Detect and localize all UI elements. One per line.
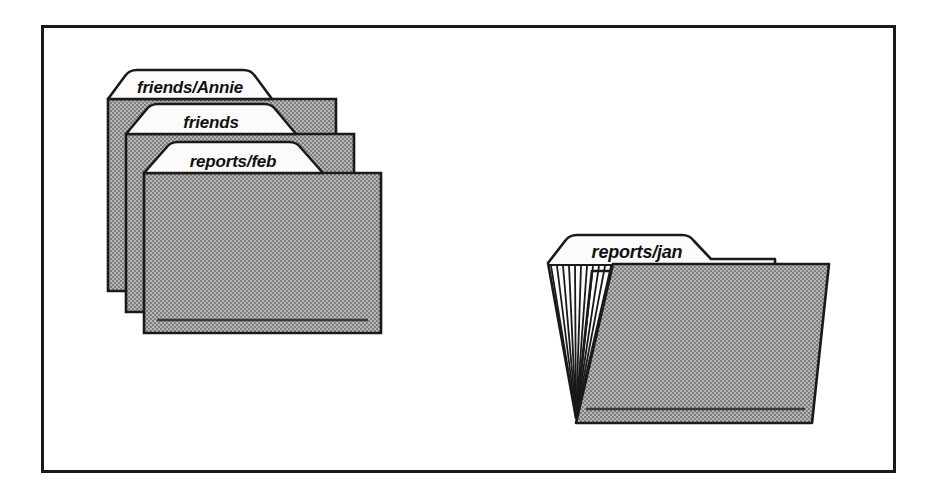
folder-tab-label: friends/Annie bbox=[137, 78, 243, 97]
folder-body bbox=[144, 173, 381, 333]
folder-tab-label: reports/feb bbox=[190, 152, 277, 171]
figure-root: friends/Annie friends reports/feb report… bbox=[0, 0, 933, 498]
open-folder-front-panel bbox=[576, 264, 829, 423]
open-folder-tab-label: reports/jan bbox=[592, 242, 683, 262]
folder-tab-label: friends bbox=[183, 113, 238, 132]
folder-illustration-canvas: friends/Annie friends reports/feb report… bbox=[0, 0, 933, 498]
open-folder-reports-jan[interactable]: reports/jan bbox=[548, 235, 829, 423]
